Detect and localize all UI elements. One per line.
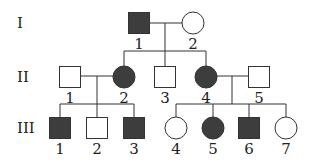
individual-number: 2 (92, 140, 102, 158)
individual-number: 4 (171, 140, 181, 158)
unaffected-female-circle-icon (275, 117, 297, 139)
affected-male-square-icon (124, 118, 145, 139)
individual-iii-1: 1 (50, 118, 71, 158)
unaffected-male-square-icon (155, 67, 176, 88)
unaffected-male-square-icon (60, 67, 81, 88)
individual-i-1: 1 (129, 13, 150, 53)
individual-number: 2 (119, 89, 129, 107)
individual-number: 5 (254, 89, 264, 107)
individual-number: 5 (208, 140, 218, 158)
generation-labels: IIIIII (17, 14, 35, 137)
individual-iii-4: 4 (165, 117, 187, 158)
unaffected-male-square-icon (87, 118, 108, 139)
individual-ii-3: 3 (155, 67, 176, 107)
individual-iii-7: 7 (275, 117, 297, 158)
individual-ii-1: 1 (60, 67, 81, 107)
affected-male-square-icon (239, 118, 260, 139)
individual-iii-3: 3 (124, 118, 145, 158)
individual-ii-2: 2 (113, 66, 135, 107)
individual-number: 7 (281, 140, 291, 158)
affected-male-square-icon (50, 118, 71, 139)
generation-label: II (17, 68, 29, 86)
individual-ii-4: 4 (195, 66, 217, 107)
individual-ii-5: 5 (249, 67, 270, 107)
affected-female-circle-icon (202, 117, 224, 139)
individual-number: 3 (129, 140, 139, 158)
individual-number: 6 (244, 140, 254, 158)
individual-number: 3 (160, 89, 170, 107)
unaffected-male-square-icon (249, 67, 270, 88)
unaffected-female-circle-icon (182, 12, 204, 34)
individual-number: 1 (65, 89, 75, 107)
individual-number: 1 (55, 140, 65, 158)
affected-male-square-icon (129, 13, 150, 34)
individual-number: 4 (201, 89, 211, 107)
individuals: 12123451234567 (50, 12, 298, 158)
individual-number: 1 (134, 35, 144, 53)
pedigree-diagram: IIIIII 12123451234567 (0, 0, 316, 163)
affected-female-circle-icon (113, 66, 135, 88)
individual-iii-6: 6 (239, 118, 260, 158)
affected-female-circle-icon (195, 66, 217, 88)
generation-label: I (17, 14, 23, 32)
individual-number: 2 (188, 35, 198, 53)
individual-iii-2: 2 (87, 118, 108, 158)
individual-i-2: 2 (182, 12, 204, 53)
individual-iii-5: 5 (202, 117, 224, 158)
unaffected-female-circle-icon (165, 117, 187, 139)
generation-label: III (17, 119, 35, 137)
